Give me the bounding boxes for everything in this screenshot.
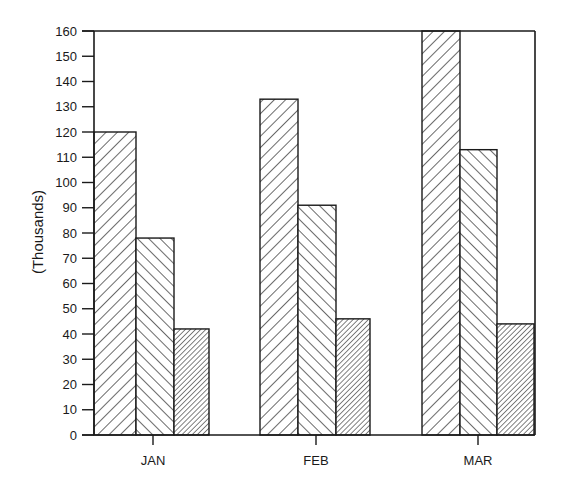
y-tick-label: 90 [63, 200, 77, 215]
bar-jan-series-2 [136, 238, 174, 435]
y-tick-label: 60 [63, 276, 77, 291]
x-axis-ticks [153, 435, 478, 445]
y-tick-label: 0 [70, 428, 77, 443]
bar-feb-series-2 [298, 205, 336, 435]
y-tick-label: 140 [55, 74, 77, 89]
x-axis-category-labels: JANFEBMAR [141, 453, 493, 468]
y-tick-label: 80 [63, 226, 77, 241]
bar-mar-series-3 [497, 324, 534, 435]
y-tick-label: 40 [63, 327, 77, 342]
y-tick-label: 10 [63, 402, 77, 417]
bar-mar-series-2 [460, 150, 497, 435]
y-tick-label: 70 [63, 251, 77, 266]
y-tick-label: 30 [63, 352, 77, 367]
bar-jan-series-1 [94, 132, 136, 435]
y-tick-label: 50 [63, 301, 77, 316]
y-tick-label: 110 [56, 150, 77, 165]
y-tick-label: 100 [55, 175, 77, 190]
x-category-label: MAR [464, 453, 493, 468]
y-tick-label: 130 [55, 99, 77, 114]
x-category-label: FEB [303, 453, 328, 468]
bar-mar-series-1 [422, 31, 460, 435]
y-tick-label: 150 [55, 49, 77, 64]
bar-chart: 0102030405060708090100110120130140150160… [0, 0, 563, 490]
bars [94, 31, 534, 435]
y-axis-ticks [82, 31, 94, 435]
bar-feb-series-3 [336, 319, 370, 435]
bar-feb-series-1 [260, 99, 298, 435]
y-tick-label: 20 [63, 377, 77, 392]
y-axis-tick-labels: 0102030405060708090100110120130140150160 [55, 24, 77, 443]
x-category-label: JAN [141, 453, 166, 468]
y-tick-label: 160 [55, 24, 77, 39]
y-tick-label: 120 [55, 125, 77, 140]
y-axis-title: (Thousands) [29, 190, 46, 274]
bar-jan-series-3 [174, 329, 209, 435]
